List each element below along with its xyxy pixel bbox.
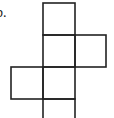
cube-net-diagram xyxy=(0,0,114,118)
net-square-left xyxy=(11,67,43,99)
net-square-right xyxy=(75,35,106,67)
net-square-middle-upper xyxy=(43,35,75,67)
net-square-middle-lower xyxy=(43,67,75,99)
net-square-bottom xyxy=(43,99,75,118)
net-square-top xyxy=(43,3,75,35)
